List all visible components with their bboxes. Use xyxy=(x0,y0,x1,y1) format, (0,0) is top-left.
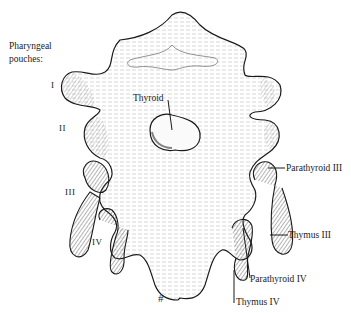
label-thyroid: Thyroid xyxy=(133,93,164,104)
pouch-label-iv: IV xyxy=(92,237,103,248)
pharyngeal-pouch-illustration: # xyxy=(0,0,351,313)
pouch-label-ii: II xyxy=(59,123,66,134)
label-parathyroid-iii: Parathyroid III xyxy=(286,163,342,174)
pouch-iii-right xyxy=(253,162,292,254)
pouch-label-iii: III xyxy=(65,187,76,198)
heading-line-2: pouches: xyxy=(9,54,43,65)
hash-mark: # xyxy=(158,292,164,304)
pouch-label-i: I xyxy=(51,80,55,91)
label-thymus-iv: Thymus IV xyxy=(236,297,280,308)
label-thymus-iii: Thymus III xyxy=(288,230,331,241)
heading-line-1: Pharyngeal xyxy=(9,41,52,52)
label-parathyroid-iv: Parathyroid IV xyxy=(250,274,307,285)
